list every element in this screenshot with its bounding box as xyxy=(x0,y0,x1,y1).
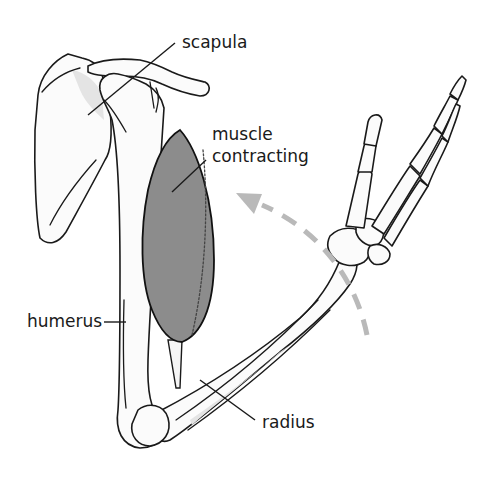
finger-middle xyxy=(372,76,466,234)
label-muscle-line1: muscle xyxy=(212,124,273,144)
flexion-arrow-head-icon xyxy=(236,193,262,214)
label-humerus: humerus xyxy=(27,311,102,331)
label-scapula: scapula xyxy=(182,32,247,52)
label-muscle-line2: contracting xyxy=(212,146,309,166)
finger-ring xyxy=(384,104,460,246)
finger-index xyxy=(346,115,382,228)
biceps-tendon xyxy=(168,340,182,388)
label-radius: radius xyxy=(262,412,315,432)
arm-muscle-diagram xyxy=(0,0,487,483)
